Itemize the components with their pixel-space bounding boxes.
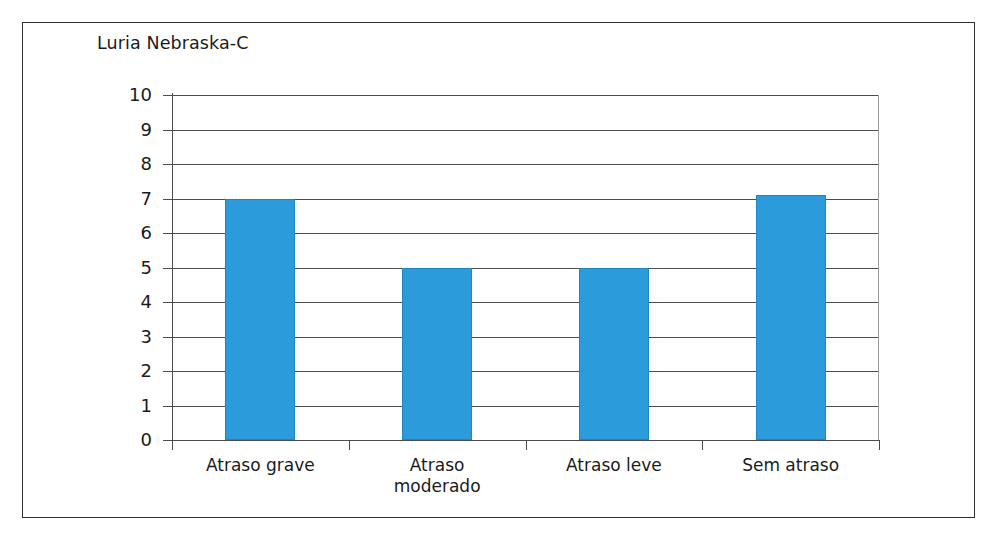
x-axis-category-label-line: Atraso leve [526, 455, 703, 476]
bar [579, 268, 649, 441]
y-axis-tick-label: 0 [94, 431, 152, 449]
x-axis-tick [879, 440, 880, 450]
x-axis-category-label: Atraso leve [526, 455, 703, 476]
gridline [172, 130, 879, 131]
y-axis-tick-label: 9 [94, 121, 152, 139]
y-axis-tick-label: 7 [94, 190, 152, 208]
y-axis-tick-label: 5 [94, 259, 152, 277]
x-axis-category-label-line: Atraso [349, 455, 526, 476]
x-axis-category-label: Atraso grave [172, 455, 349, 476]
gridline [172, 164, 879, 165]
chart-title: Luria Nebraska-C [97, 33, 249, 53]
x-axis-category-label-line: moderado [349, 476, 526, 497]
plot-right-edge [878, 95, 879, 440]
bar [225, 199, 295, 441]
bottom-cropped-text [24, 526, 544, 539]
x-axis-category-label: Sem atraso [702, 455, 879, 476]
x-axis-tick [172, 440, 173, 450]
x-axis-tick [349, 440, 350, 450]
y-axis-tick-label: 2 [94, 362, 152, 380]
y-axis-tick-label: 3 [94, 328, 152, 346]
y-axis-tick-label: 1 [94, 397, 152, 415]
bar [402, 268, 472, 441]
x-axis-category-label-line: Sem atraso [702, 455, 879, 476]
bar [756, 195, 826, 440]
x-axis-tick [702, 440, 703, 450]
y-axis-tick-label: 6 [94, 224, 152, 242]
gridline [172, 95, 879, 96]
y-axis-tick-label: 4 [94, 293, 152, 311]
x-axis-category-label-line: Atraso grave [172, 455, 349, 476]
plot-area [172, 95, 879, 440]
y-axis-tick-label: 8 [94, 155, 152, 173]
x-axis-category-label: Atrasomoderado [349, 455, 526, 498]
y-axis-tick-label: 10 [94, 86, 152, 104]
x-axis-tick [526, 440, 527, 450]
